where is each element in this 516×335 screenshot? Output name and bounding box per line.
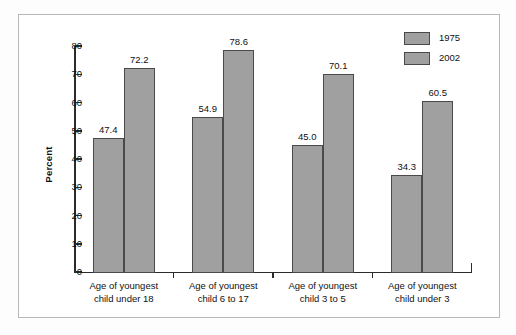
bar-1975-group-0[interactable] — [93, 138, 124, 273]
bar-1975-group-1[interactable] — [192, 117, 223, 273]
bar-1975-group-2[interactable] — [292, 145, 323, 273]
x-axis-group-tick-1 — [173, 272, 175, 278]
y-axis-tick-label-0: 0 — [44, 267, 82, 277]
y-axis-tick-label-70: 70 — [44, 69, 82, 79]
bar-value-label-1975-group-1: 54.9 — [188, 104, 228, 114]
y-axis-tick-label-20: 20 — [44, 211, 82, 221]
bar-value-label-2002-group-2: 70.1 — [318, 61, 358, 71]
y-axis-tick-label-wrap: 70 — [44, 69, 82, 70]
bar-value-label-2002-group-0: 72.2 — [119, 55, 159, 65]
y-axis-tick-label-wrap: 80 — [44, 41, 82, 42]
y-axis-tick-label-wrap: 30 — [44, 182, 82, 183]
bar-2002-group-0[interactable] — [124, 68, 155, 273]
legend-swatch-2002-icon — [404, 52, 430, 65]
y-axis-tick-label-wrap: 50 — [44, 126, 82, 127]
y-axis-tick-label-30: 30 — [44, 182, 82, 192]
y-axis-tick-label-wrap: 60 — [44, 98, 82, 99]
legend-item-1975[interactable]: 1975 — [404, 30, 460, 46]
y-axis-tick-label-40: 40 — [44, 154, 82, 164]
legend: 1975 2002 — [404, 30, 460, 70]
legend-swatch-1975-icon — [404, 32, 430, 45]
bar-1975-group-3[interactable] — [391, 175, 422, 273]
x-axis-end-tick — [471, 263, 473, 272]
bar-chart: Percent 80706050403020100 47.454.945.034… — [0, 0, 516, 335]
x-axis-category-label-3: Age of youngest child under 3 — [362, 280, 482, 305]
bar-2002-group-3[interactable] — [422, 101, 453, 273]
bar-value-label-1975-group-3: 34.3 — [387, 162, 427, 172]
bar-2002-group-2[interactable] — [323, 74, 354, 273]
y-axis-tick-label-wrap: 40 — [44, 154, 82, 155]
legend-label-2002: 2002 — [439, 53, 460, 63]
x-axis-group-tick-3 — [372, 272, 374, 278]
legend-item-2002[interactable]: 2002 — [404, 50, 460, 66]
y-axis-title: Percent — [43, 146, 54, 182]
y-axis-tick-label-wrap: 0 — [44, 267, 82, 268]
y-axis-tick-label-10: 10 — [44, 239, 82, 249]
chart-screenshot: Percent 80706050403020100 47.454.945.034… — [0, 0, 516, 335]
bar-value-label-1975-group-0: 47.4 — [88, 125, 128, 135]
bar-value-label-2002-group-3: 60.5 — [418, 88, 458, 98]
y-axis-tick-label-wrap: 10 — [44, 239, 82, 240]
y-axis-tick-label-60: 60 — [44, 98, 82, 108]
y-axis-tick-label-50: 50 — [44, 126, 82, 136]
bar-value-label-1975-group-2: 45.0 — [287, 132, 327, 142]
bar-2002-group-1[interactable] — [223, 50, 254, 273]
bar-value-label-2002-group-1: 78.6 — [219, 37, 259, 47]
y-axis-tick-label-wrap: 20 — [44, 211, 82, 212]
x-axis-group-tick-2 — [272, 272, 274, 278]
legend-label-1975: 1975 — [439, 33, 460, 43]
y-axis-tick-label-80: 80 — [44, 41, 82, 51]
